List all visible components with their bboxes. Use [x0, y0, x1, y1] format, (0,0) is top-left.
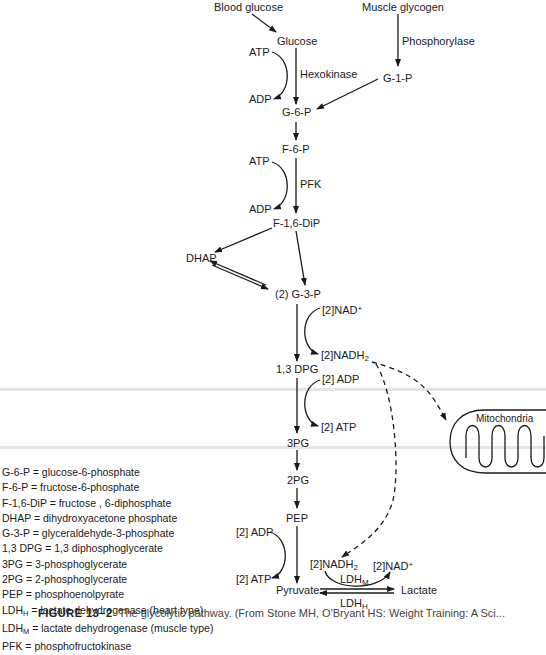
node-pep: PEP — [286, 512, 308, 525]
ldh-nadh-base: [2]NADH — [310, 558, 353, 570]
enzyme-hexokinase: Hexokinase — [300, 68, 357, 81]
cofactor-dpg-atp: [2] ATP — [321, 421, 356, 434]
cofactor-hexokinase-adp: ADP — [249, 93, 272, 106]
node-lactate: Lactate — [401, 584, 437, 597]
legend-item: DHAP = dihydroxyacetone phosphate — [2, 511, 213, 526]
legend-item: F-1,6-DiP = fructose , 6-diphosphate — [2, 496, 213, 511]
cofactor-g3p-nadh2: [2]NADH2 — [321, 349, 369, 365]
ldh-m-sub: M — [362, 578, 369, 587]
legend-item: PEP = phosphoenolpyrate — [2, 587, 213, 602]
cofactor-g3p-nad: [2]NAD+ — [322, 302, 362, 317]
legend-item: G-6-P = glucose-6-phosphate — [2, 465, 213, 480]
legend-item: F-6-P = fructose-6-phosphate — [2, 480, 213, 495]
node-g1p: G-1-P — [383, 72, 412, 85]
enzyme-phosphorylase: Phosphorylase — [402, 35, 475, 48]
node-f16dip: F-1,6-DiP — [273, 217, 320, 230]
ldh-nadh-sub: 2 — [353, 563, 357, 572]
node-mitochondria: Mitochondria — [476, 412, 533, 425]
cofactor-pfk-adp: ADP — [249, 203, 272, 216]
node-2pg: 2PG — [287, 474, 309, 487]
node-glucose: Glucose — [277, 35, 317, 48]
cofactor-pep-atp: [2] ATP — [236, 573, 271, 586]
nad-base: [2]NAD — [322, 304, 357, 316]
figure-caption: FIGURE 13–2 The glycolytic pathway. (Fro… — [38, 607, 505, 619]
node-dhap: DHAP — [186, 252, 217, 265]
cofactor-ldh-nad: [2]NAD+ — [373, 558, 413, 573]
nad-sup: + — [357, 304, 362, 313]
node-13dpg: 1,3 DPG — [276, 363, 318, 376]
abbreviation-legend: G-6-P = glucose-6-phosphate F-6-P = fruc… — [2, 465, 213, 655]
figure-label: FIGURE 13–2 — [38, 607, 113, 619]
legend-item: 3PG = 3-phosphoglycerate — [2, 557, 213, 572]
node-3pg: 3PG — [287, 437, 309, 450]
node-pyruvate: Pyruvate — [276, 584, 319, 597]
figure-caption-text: The glycolytic pathway. (From Stone MH, … — [119, 607, 505, 619]
ldh-nad-base: [2]NAD — [373, 560, 408, 572]
ldh-m-base: LDH — [340, 573, 362, 585]
ldh-nad-sup: + — [408, 560, 413, 569]
cofactor-pfk-atp: ATP — [249, 155, 270, 168]
cofactor-hexokinase-atp: ATP — [249, 46, 270, 59]
node-g3p: (2) G-3-P — [275, 288, 321, 301]
node-f6p: F-6-P — [282, 143, 310, 156]
enzyme-pfk: PFK — [300, 178, 321, 191]
nadh-base: [2]NADH — [321, 349, 364, 361]
node-muscle-glycogen: Muscle glycogen — [362, 1, 444, 14]
legend-item: PFK = phosphofructokinase — [2, 639, 213, 654]
node-g6p: G-6-P — [282, 106, 311, 119]
nadh-sub: 2 — [364, 354, 368, 363]
legend-item: G-3-P = glyceraldehyde-3-phosphate — [2, 526, 213, 541]
cofactor-ldh-nadh2: [2]NADH2 — [310, 558, 358, 574]
node-blood-glucose: Blood glucose — [214, 1, 283, 14]
enzyme-ldh-m: LDHM — [340, 573, 369, 589]
legend-item: 2PG = 2-phosphoglycerate — [2, 572, 213, 587]
legend-item: 1,3 DPG = 1,3 diphosphoglycerate — [2, 541, 213, 556]
cofactor-dpg-adp: [2] ADP — [322, 373, 359, 386]
legend-item: LDHM = lactate dehydrogenase (muscle typ… — [2, 621, 213, 639]
cofactor-pep-adp: [2] ADP — [236, 526, 273, 539]
